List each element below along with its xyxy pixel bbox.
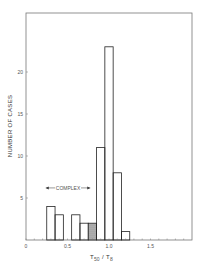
annotation-label: COMPLEX: [56, 185, 81, 191]
y-tick-label: 10: [17, 153, 23, 159]
histogram-bar: [97, 148, 105, 240]
arrow-left-icon: [46, 186, 49, 189]
x-tick-label: 1.5: [147, 243, 154, 249]
y-tick-label: 15: [17, 111, 23, 117]
histogram-bar: [113, 173, 121, 240]
x-tick-label: 0: [25, 243, 28, 249]
y-axis-title: NUMBER OF CASES: [7, 95, 13, 158]
x-axis-title: T 50 / T 8: [90, 254, 113, 262]
complex-annotation: COMPLEX: [46, 185, 91, 191]
arrow-right-icon: [87, 186, 90, 189]
x-tick-label: 0.5: [64, 243, 71, 249]
svg-text:8: 8: [110, 256, 113, 262]
histogram-bar: [80, 223, 88, 240]
histogram-bar: [55, 215, 63, 240]
histogram-bar: [47, 206, 55, 240]
y-tick-label: 5: [20, 195, 23, 201]
histogram-bar: [72, 215, 80, 240]
histogram-bars: [47, 47, 130, 240]
y-tick-label: 20: [17, 69, 23, 75]
histogram-chart: 00.51.01.5 5101520 COMPLEX NUMBER OF CAS…: [0, 0, 203, 267]
histogram-bar: [88, 223, 96, 240]
histogram-bar: [105, 47, 113, 240]
svg-text:/: /: [102, 254, 104, 260]
x-tick-label: 1.0: [106, 243, 113, 249]
y-axis-ticks: 5101520: [17, 69, 28, 201]
svg-text:50: 50: [94, 256, 100, 262]
